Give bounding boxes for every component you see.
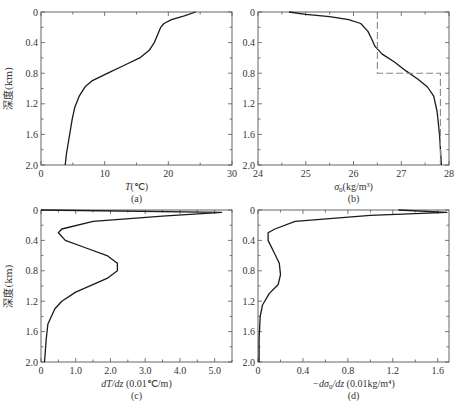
y-tick-label: 0.4 (243, 235, 256, 246)
panel-c-temperature-gradient: 00.40.81.21.62.001.02.03.04.05.0dT/dz (0… (2, 205, 232, 403)
y-tick-label: 0.4 (26, 235, 39, 246)
panel-a-temperature: 00.40.81.21.62.00102030T(℃)(a)深度(km) (2, 7, 237, 206)
y-tick-label: 1.2 (26, 296, 39, 307)
x-tick-label: 1.2 (387, 365, 400, 376)
plot-frame (258, 210, 449, 362)
x-tick-label: 5.0 (208, 365, 221, 376)
y-tick-label: 2.0 (26, 357, 39, 368)
panel-caption: (a) (131, 193, 142, 205)
y-tick-label: 1.6 (26, 129, 39, 140)
x-axis-label: dT/dz (0.01℃/m) (101, 378, 171, 390)
x-axis-label: T(℃) (125, 181, 148, 193)
y-tick-label: 0 (250, 205, 255, 216)
x-tick-label: 0.4 (297, 365, 310, 376)
y-tick-label: 0.4 (26, 37, 39, 48)
y-tick-label: 1.6 (243, 326, 256, 337)
plot-frame (41, 12, 232, 165)
y-tick-label: 1.6 (243, 129, 256, 140)
profile-line (65, 12, 196, 165)
y-tick-label: 0 (250, 7, 255, 18)
x-tick-label: 0.8 (342, 365, 355, 376)
x-tick-label: 20 (163, 168, 173, 179)
x-tick-label: 28 (444, 168, 454, 179)
panel-caption: (d) (348, 390, 360, 402)
x-tick-label: 0 (39, 365, 44, 376)
x-tick-label: 27 (396, 168, 406, 179)
y-tick-label: 0.8 (26, 265, 39, 276)
x-tick-label: 26 (349, 168, 359, 179)
profile-line (259, 210, 447, 362)
plot-frame (41, 210, 232, 362)
panel-d-density-gradient: 00.40.81.21.62.000.40.81.21.6−dσ0/dz (0.… (243, 205, 450, 403)
y-tick-label: 0.4 (243, 37, 256, 48)
y-tick-label: 0.8 (243, 68, 256, 79)
y-tick-label: 0.8 (243, 265, 256, 276)
x-tick-label: 10 (100, 168, 110, 179)
x-tick-label: 1.6 (432, 365, 445, 376)
x-tick-label: 24 (253, 168, 263, 179)
x-tick-label: 0 (256, 365, 261, 376)
reference-profile-line (377, 12, 440, 165)
y-tick-label: 0 (33, 7, 38, 18)
y-axis-label: 深度(km) (2, 67, 14, 110)
y-tick-label: 1.2 (243, 98, 256, 109)
y-tick-label: 1.6 (26, 326, 39, 337)
panel-caption: (b) (348, 193, 360, 205)
panel-caption: (c) (131, 390, 142, 402)
y-tick-label: 2.0 (243, 357, 256, 368)
x-tick-label: 0 (39, 168, 44, 179)
figure: 00.40.81.21.62.00102030T(℃)(a)深度(km) 00.… (0, 0, 458, 409)
plot-frame (258, 12, 449, 165)
x-tick-label: 2.0 (104, 365, 117, 376)
y-tick-label: 1.2 (243, 296, 256, 307)
panel-b-density: 00.40.81.21.62.02425262728σ0(kg/m³)(b) (243, 7, 455, 206)
y-tick-label: 0 (33, 205, 38, 216)
y-tick-label: 0.8 (26, 68, 39, 79)
x-tick-label: 25 (301, 168, 311, 179)
profile-line (289, 12, 441, 165)
x-tick-label: 4.0 (174, 365, 187, 376)
x-tick-label: 30 (227, 168, 237, 179)
y-axis-label: 深度(km) (2, 264, 14, 307)
y-tick-label: 2.0 (26, 160, 39, 171)
y-tick-label: 1.2 (26, 98, 39, 109)
profile-line (41, 210, 222, 362)
x-tick-label: 3.0 (139, 365, 152, 376)
x-tick-label: 1.0 (69, 365, 82, 376)
